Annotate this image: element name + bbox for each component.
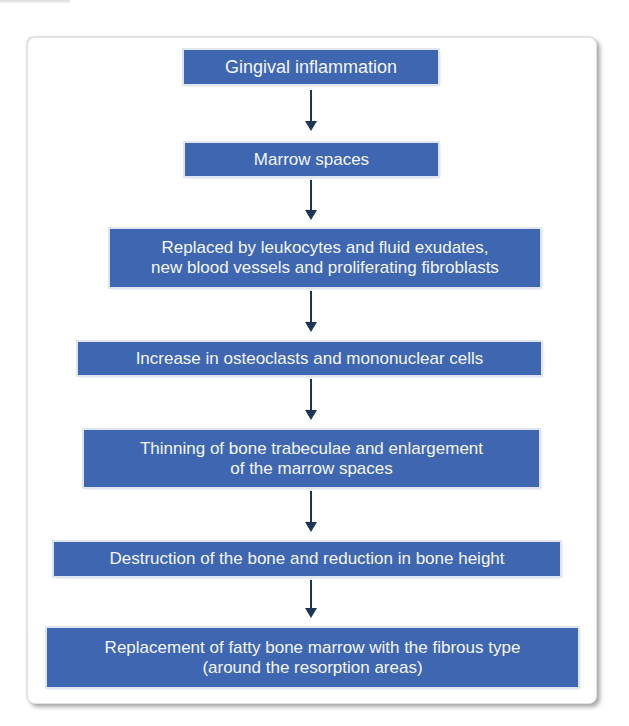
step-marrow-spaces: Marrow spaces: [185, 143, 438, 176]
step-label: Thinning of bone trabeculae and enlargem…: [140, 439, 483, 479]
step-label: Destruction of the bone and reduction in…: [109, 549, 504, 569]
arrow-down-icon: [305, 491, 317, 534]
arrow-down-icon: [305, 291, 317, 334]
arrow-down-icon: [305, 379, 317, 422]
step-replaced-by-leukocytes: Replaced by leukocytes and fluid exudate…: [110, 229, 540, 287]
step-bone-destruction: Destruction of the bone and reduction in…: [54, 542, 560, 576]
step-increase-osteoclasts: Increase in osteoclasts and mononuclear …: [78, 342, 541, 375]
step-label: Marrow spaces: [254, 150, 369, 170]
arrow-down-icon: [305, 180, 317, 222]
step-thinning-trabeculae: Thinning of bone trabeculae and enlargem…: [84, 430, 539, 487]
cropped-text-fragment: [0, 0, 70, 3]
arrow-down-icon: [305, 90, 317, 133]
step-fibrous-replacement: Replacement of fatty bone marrow with th…: [47, 628, 578, 687]
step-label: Gingival inflammation: [225, 57, 397, 77]
arrow-down-icon: [305, 580, 317, 620]
step-label: Replacement of fatty bone marrow with th…: [105, 638, 521, 678]
step-gingival-inflammation: Gingival inflammation: [184, 50, 438, 84]
step-label: Replaced by leukocytes and fluid exudate…: [151, 238, 499, 278]
step-label: Increase in osteoclasts and mononuclear …: [136, 349, 484, 369]
